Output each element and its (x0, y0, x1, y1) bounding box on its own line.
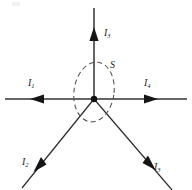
label-current-i1: I1 (28, 78, 35, 89)
label-i1-subscript: 1 (31, 82, 34, 89)
wire-lower-left (22, 99, 94, 188)
label-i2-subscript: 2 (25, 161, 28, 168)
label-surface-s: S (110, 60, 115, 70)
arrowhead-i3-top (89, 27, 98, 41)
label-current-i2: I2 (22, 157, 29, 168)
label-current-i3-top: I3 (104, 28, 111, 39)
label-current-i3-bottom: I3 (154, 162, 161, 173)
arrowhead-i1 (30, 94, 44, 103)
wire-lower-right (94, 99, 172, 190)
label-i3-bottom-subscript: 3 (157, 166, 160, 173)
label-i3-top-subscript: 3 (107, 32, 110, 39)
arrowhead-i4 (144, 94, 158, 103)
label-current-i4: I4 (144, 78, 151, 89)
current-junction-figure: .wire { stroke: #333333; stroke-width: 1… (0, 0, 192, 190)
label-i4-subscript: 4 (147, 82, 150, 89)
junction-node (91, 96, 97, 102)
